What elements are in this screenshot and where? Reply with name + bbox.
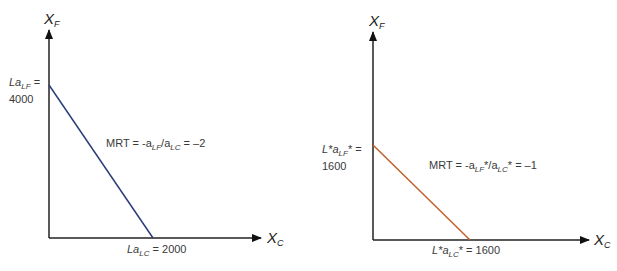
left-x-axis-label: XC: [267, 229, 284, 248]
left-mrt-label: MRT = -aLF/aLC = –2: [106, 137, 205, 154]
chart-canvas: [0, 0, 617, 271]
left-ppf-line: [49, 85, 153, 238]
left-y-intercept-label: LaLF = 4000: [9, 76, 40, 106]
right-x-intercept-label: L*aLC* = 1600: [432, 244, 500, 261]
left-y-axis-label: XF: [44, 10, 60, 29]
right-mrt-label: MRT = -aLF*/aLC* = –1: [429, 159, 537, 176]
left-x-intercept-label: LaLC = 2000: [127, 243, 187, 260]
right-x-axis-label: XC: [594, 231, 611, 250]
right-y-intercept-label: L*aLF* = 1600: [322, 143, 362, 173]
right-y-axis-label: XF: [369, 12, 385, 31]
